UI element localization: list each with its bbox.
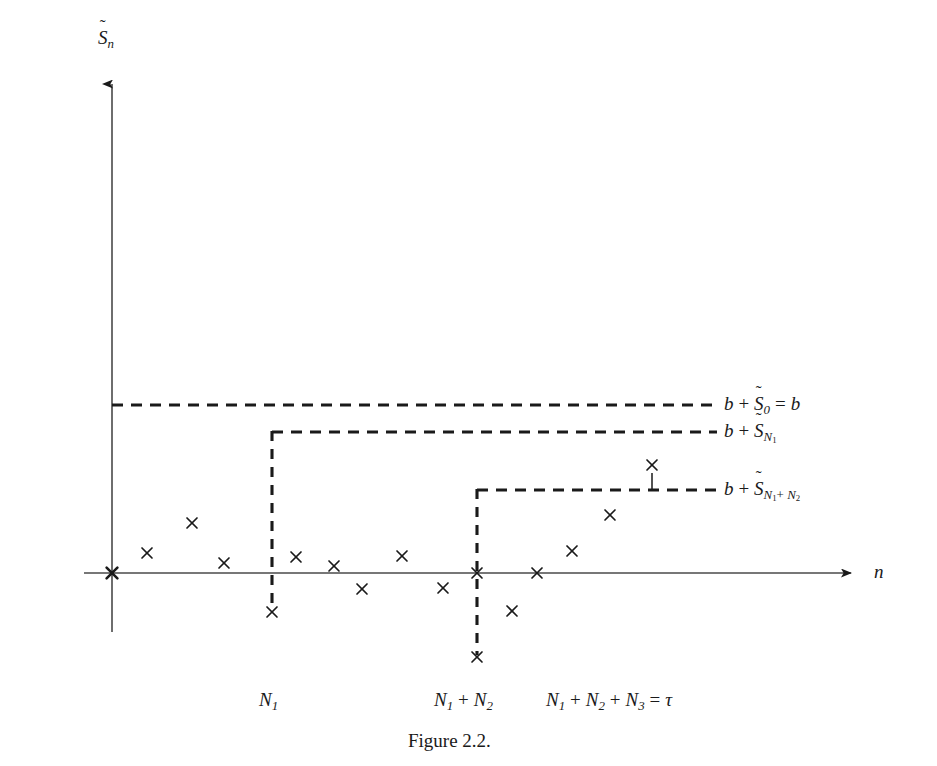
data-point-marker	[567, 546, 577, 556]
data-point-marker	[291, 552, 301, 562]
axes-group	[84, 84, 851, 632]
x-tick-label-n1: N1	[259, 690, 278, 713]
y-axis-label: ˜Sn	[98, 28, 114, 51]
x-axis-label: n	[874, 562, 884, 581]
barrier-label-level-1: b+˜SN1	[724, 421, 777, 445]
figure-container: ˜Sn n b+˜S0=b b+˜SN1 b+˜SN1+N2 N1 N1+N2 …	[0, 0, 937, 766]
data-point-marker	[605, 510, 615, 520]
ladder-drops-group	[272, 431, 477, 655]
plot-canvas	[0, 0, 937, 766]
data-point-marker	[507, 606, 517, 616]
data-point-marker	[267, 607, 277, 617]
data-point-marker	[357, 584, 367, 594]
data-point-marker	[142, 548, 152, 558]
x-tick-label-tau: N1+N2+N3=τ	[546, 690, 672, 713]
x-tick-label-n1-n2: N1+N2	[434, 690, 493, 713]
data-point-marker	[438, 583, 448, 593]
data-point-marker	[329, 561, 339, 571]
barrier-label-level-0: b+˜S0=b	[724, 394, 800, 417]
data-point-marker	[219, 558, 229, 568]
data-point-marker	[187, 518, 197, 528]
figure-caption: Figure 2.2.	[408, 731, 491, 750]
data-point-marker	[397, 551, 407, 561]
barrier-label-level-2: b+˜SN1+N2	[724, 479, 800, 503]
barrier-levels-group	[112, 405, 717, 490]
data-point-marker	[647, 460, 657, 470]
